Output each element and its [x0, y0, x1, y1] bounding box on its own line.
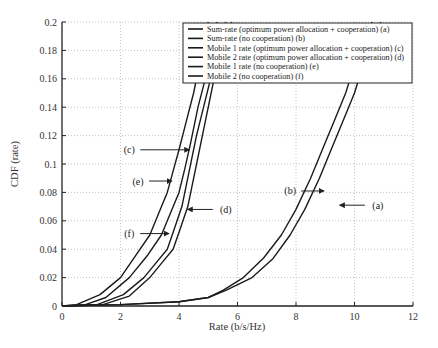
x-tick-label: 2: [118, 311, 123, 322]
legend-entry: Mobile 2 rate (optimum power allocation …: [207, 53, 404, 62]
y-tick-label: 0.14: [40, 102, 58, 113]
y-tick-label: 0: [52, 301, 57, 312]
annotation-label: (c): [124, 144, 135, 156]
x-tick-label: 4: [177, 311, 182, 322]
legend-entry: Mobile 2 (no cooperation) (f): [207, 72, 304, 81]
legend-entry: Mobile 1 rate (optimum power allocation …: [207, 44, 404, 53]
x-tick-label: 8: [294, 311, 299, 322]
legend: Sum-rate (optimum power allocation + coo…: [183, 23, 412, 83]
y-tick-label: 0.12: [40, 130, 58, 141]
y-tick-label: 0.08: [40, 187, 58, 198]
legend-entry: Sum-rate (optimum power allocation + coo…: [207, 25, 390, 34]
y-axis-title: CDF (rate): [9, 141, 21, 187]
cdf-rate-chart: 02468101200.020.040.060.080.10.120.140.1…: [0, 0, 438, 348]
y-tick-label: 0.16: [40, 73, 58, 84]
legend-entry: Sum-rate (no cooperation) (b): [207, 34, 305, 43]
annotation-label: (b): [284, 185, 296, 197]
y-tick-label: 0.2: [45, 17, 58, 28]
annotation-label: (f): [124, 228, 134, 240]
annotation-label: (a): [372, 200, 383, 212]
annotation-label: (d): [220, 204, 232, 216]
y-tick-label: 0.04: [40, 244, 58, 255]
y-tick-label: 0.02: [40, 272, 58, 283]
x-tick-label: 0: [60, 311, 65, 322]
x-tick-label: 12: [408, 311, 418, 322]
x-axis-title: Rate (b/s/Hz): [209, 321, 266, 333]
annotation-label: (e): [132, 176, 143, 188]
y-tick-label: 0.1: [45, 159, 58, 170]
legend-entry: Mobile 1 rate (no cooperation) (e): [207, 62, 319, 71]
x-tick-label: 10: [350, 311, 360, 322]
y-tick-label: 0.06: [40, 215, 58, 226]
y-tick-label: 0.18: [40, 45, 58, 56]
